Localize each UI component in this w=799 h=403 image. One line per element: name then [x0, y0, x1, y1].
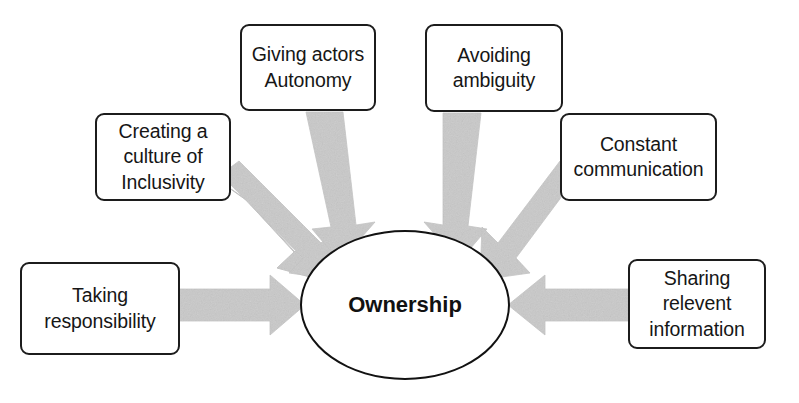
arrow-from-sharing-information — [508, 275, 628, 335]
diagram-canvas: Creating a culture of Inclusivity Giving… — [0, 0, 799, 403]
node-label: Constant communication — [562, 132, 715, 183]
node-label: Avoiding ambiguity — [427, 43, 561, 94]
center-node-label: Ownership — [348, 292, 462, 318]
node-giving-actors-autonomy[interactable]: Giving actors Autonomy — [240, 24, 376, 111]
node-taking-responsibility[interactable]: Taking responsibility — [20, 262, 180, 355]
node-label: Creating a culture of Inclusivity — [97, 119, 229, 195]
node-creating-culture-of-inclusivity[interactable]: Creating a culture of Inclusivity — [95, 113, 231, 201]
arrow-from-taking-responsibility — [178, 275, 305, 335]
node-avoiding-ambiguity[interactable]: Avoiding ambiguity — [425, 24, 563, 112]
node-label: Giving actors Autonomy — [242, 42, 374, 93]
node-constant-communication[interactable]: Constant communication — [560, 113, 717, 201]
node-label: Sharing relevent information — [630, 266, 764, 342]
node-ownership-center[interactable]: Ownership — [300, 230, 510, 380]
node-label: Taking responsibility — [22, 283, 178, 334]
node-sharing-relevent-information[interactable]: Sharing relevent information — [628, 259, 766, 349]
